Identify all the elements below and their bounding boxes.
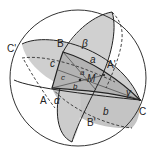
label-C-prime: C'	[7, 43, 16, 54]
label-b-inner: b	[73, 82, 78, 91]
label-A-prime: A'	[107, 59, 116, 70]
point-C	[139, 99, 141, 101]
label-beta: β	[81, 38, 88, 49]
point-A-prime	[103, 74, 105, 76]
label-a-outer: a	[90, 54, 96, 65]
label-a-inner: a	[80, 68, 85, 77]
great-circle-band-alpha	[57, 88, 80, 142]
label-alpha: α	[54, 95, 60, 106]
label-B-prime: B'	[87, 117, 96, 128]
label-B: B	[57, 38, 64, 49]
label-A: A	[40, 95, 47, 106]
spherical-triangle-diagram: B β C' c a A' a c M b A α γ b B' C	[0, 0, 152, 153]
label-M: M	[87, 73, 96, 84]
label-C: C	[139, 106, 146, 117]
label-b-outer: b	[103, 106, 109, 117]
label-c-inner: c	[61, 73, 65, 82]
point-M	[79, 79, 82, 82]
label-c-outer: c	[50, 58, 55, 69]
